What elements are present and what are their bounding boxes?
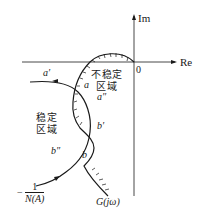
point-b-double-prime-label: b″: [51, 146, 60, 156]
unstable-region-label: 不稳定 区域: [91, 70, 123, 92]
point-a-prime-label: a′: [43, 68, 50, 78]
point-b-prime-label: b′: [97, 121, 104, 131]
origin-label: 0: [136, 65, 141, 75]
stable-region-line1: 稳定: [36, 113, 57, 123]
point-a-double-prime-label: a″: [97, 92, 106, 102]
unstable-region-line2: 区域: [91, 82, 123, 92]
imag-axis-label: Im: [138, 13, 150, 24]
df-minus-sign: −: [17, 188, 23, 198]
nyquist-label: G(jω): [96, 197, 120, 207]
df-arrow-lower-icon: [54, 176, 60, 181]
unstable-region-line1: 不稳定: [91, 70, 123, 80]
real-axis-label: Re: [180, 57, 192, 68]
point-a-label: a: [84, 80, 89, 90]
point-b-label: b: [82, 150, 87, 160]
df-numerator: 1: [25, 181, 44, 193]
df-fraction-label: 1 N(A): [25, 181, 44, 204]
imag-axis-arrow-icon: [132, 14, 136, 20]
stable-region-line2: 区域: [36, 125, 57, 135]
df-denominator: N(A): [25, 193, 44, 204]
real-axis-arrow-icon: [171, 60, 177, 64]
stable-region-label: 稳定 区域: [36, 113, 57, 135]
